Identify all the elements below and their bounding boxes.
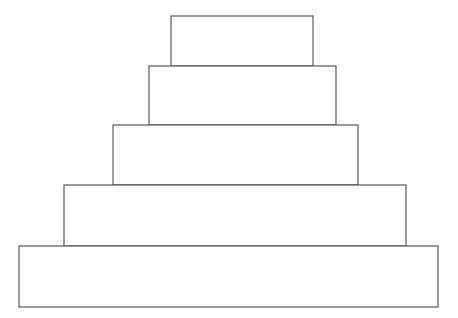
- tier-rect-3: [113, 125, 358, 185]
- tier-rect-4: [64, 185, 406, 246]
- stacked-rectangles-svg: [0, 0, 458, 318]
- tier-rect-1: [171, 16, 313, 66]
- tier-rect-5: [19, 246, 438, 307]
- tier-rect-2: [149, 66, 336, 125]
- figure-canvas: [0, 0, 458, 318]
